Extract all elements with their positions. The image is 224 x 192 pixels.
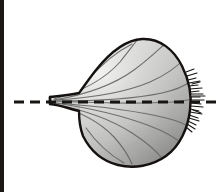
onion-diagram-canvas — [0, 0, 224, 192]
onion-diagram-figure: Onion bulb longitudinal section axis of … — [0, 0, 224, 192]
left-border-strip — [0, 0, 4, 192]
